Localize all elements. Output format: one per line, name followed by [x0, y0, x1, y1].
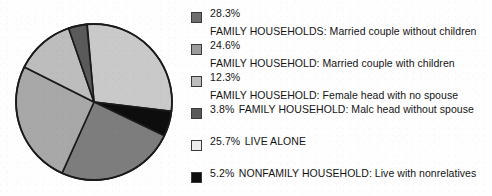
legend-swatch-married-couple-without-children [191, 12, 202, 23]
legend-item-percent: 5.2% [210, 167, 234, 179]
pie-chart-plot-area [8, 16, 180, 188]
legend-item-text: 24.6% FAMILY HOUSEHOLD: Married couple w… [210, 35, 489, 71]
legend-item-percent: 3.8% [210, 103, 234, 115]
legend-item-text: 28.3% FAMILY HOUSEHOLDS: Married couple … [210, 3, 489, 39]
legend-item-text: 12.3% FAMILY HOUSEHOLD: Female head with… [210, 67, 489, 103]
chart-legend: 28.3% FAMILY HOUSEHOLDS: Married couple … [191, 3, 489, 195]
legend-item[interactable]: 12.3% FAMILY HOUSEHOLD: Female head with… [191, 67, 489, 99]
legend-swatch-live-with-nonrelatives [191, 172, 202, 183]
legend-item-percent: 12.3% [210, 71, 240, 83]
legend-swatch-live-alone [191, 140, 202, 151]
legend-item[interactable]: 28.3% FAMILY HOUSEHOLDS: Married couple … [191, 3, 489, 35]
legend-item-percent: 24.6% [210, 39, 240, 51]
pie-slice-married-couple-without-children[interactable] [87, 24, 172, 111]
pie-chart-figure: 28.3% FAMILY HOUSEHOLDS: Married couple … [0, 0, 492, 196]
legend-item[interactable]: 25.7% LIVE ALONE [191, 131, 489, 163]
legend-item-percent: 28.3% [210, 7, 240, 19]
legend-item-text: 25.7% LIVE ALONE [210, 131, 306, 149]
legend-item[interactable]: 24.6% FAMILY HOUSEHOLD: Married couple w… [191, 35, 489, 67]
legend-swatch-female-head-no-spouse [191, 76, 202, 87]
legend-item[interactable]: 3.8% FAMILY HOUSEHOLD: Malc head without… [191, 99, 489, 131]
legend-item-percent: 25.7% [210, 135, 240, 147]
legend-item-label: NONFAMILY HOUSEHOLD: Live with nonrelati… [239, 167, 477, 179]
legend-item-text: 3.8% FAMILY HOUSEHOLD: Malc head without… [210, 99, 474, 117]
legend-item-text: 5.2% NONFAMILY HOUSEHOLD: Live with nonr… [210, 163, 476, 181]
legend-item[interactable]: 5.2% NONFAMILY HOUSEHOLD: Live with nonr… [191, 163, 489, 195]
legend-swatch-male-head-without-spouse [191, 108, 202, 119]
legend-swatch-married-couple-with-children [191, 44, 202, 55]
legend-item-label: FAMILY HOUSEHOLD: Malc head without spou… [239, 103, 474, 115]
legend-item-label: LIVE ALONE [245, 135, 306, 147]
pie-chart-svg [8, 16, 180, 188]
